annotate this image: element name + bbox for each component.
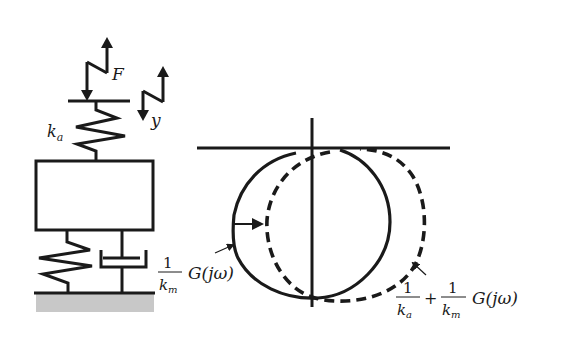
upper-spring-label: ka <box>47 122 63 144</box>
force-arrow-icon <box>81 37 113 101</box>
upper-spring <box>76 101 125 161</box>
mass-block <box>36 161 153 230</box>
lower-spring <box>39 230 92 293</box>
solid-label-tail: G(jω) <box>188 263 234 283</box>
dashed-label-tail: G(jω) <box>472 288 518 308</box>
mechanical-model <box>36 37 169 293</box>
displacement-label: y <box>150 110 161 130</box>
damper <box>101 230 146 293</box>
dashed-label-num1: 1 <box>403 279 413 297</box>
force-label: F <box>111 64 125 84</box>
ground-hatch <box>36 294 154 312</box>
dashed-label-num2: 1 <box>448 279 458 297</box>
solid-label-den: km <box>159 276 178 295</box>
dashed-label-den1: ka <box>397 301 412 320</box>
solid-curve-label: 1 km G(jω) <box>158 254 234 295</box>
locus-dashed <box>267 149 425 301</box>
dashed-label-den2: km <box>442 301 461 320</box>
diagram-canvas: F y ka 1 km G(jω) 1 ka + 1 km G(jω) <box>0 0 563 339</box>
solid-label-num: 1 <box>163 254 173 272</box>
dashed-label-plus: + <box>424 289 437 308</box>
dashed-curve-label: 1 ka + 1 km G(jω) <box>396 279 518 320</box>
dashed-leader-icon <box>413 263 426 275</box>
solid-leader-icon <box>215 245 233 253</box>
